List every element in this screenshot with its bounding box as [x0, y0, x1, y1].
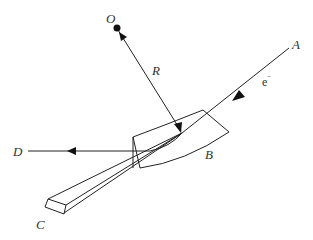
diagram-canvas [0, 0, 313, 240]
wedge-strip-bottom [66, 133, 182, 205]
wedge-strip-top [48, 133, 182, 199]
label-A: A [292, 38, 300, 51]
label-R: R [152, 64, 160, 77]
curved-plate-outline [133, 110, 229, 168]
radius-line [118, 30, 181, 131]
label-electron: e− [262, 76, 271, 88]
wedge-strip-end [45, 199, 66, 214]
label-D: D [13, 145, 22, 158]
radius-arrowhead-top [119, 32, 127, 41]
label-O: O [106, 12, 115, 25]
label-C: C [36, 218, 45, 231]
radius-arrowhead-bottom [174, 122, 182, 133]
incident-beam-line [182, 48, 289, 133]
emitted-arrowhead [67, 147, 76, 155]
label-B: B [205, 148, 213, 161]
wedge-strip-inner [64, 133, 182, 213]
emitted-beam-line [28, 133, 182, 151]
